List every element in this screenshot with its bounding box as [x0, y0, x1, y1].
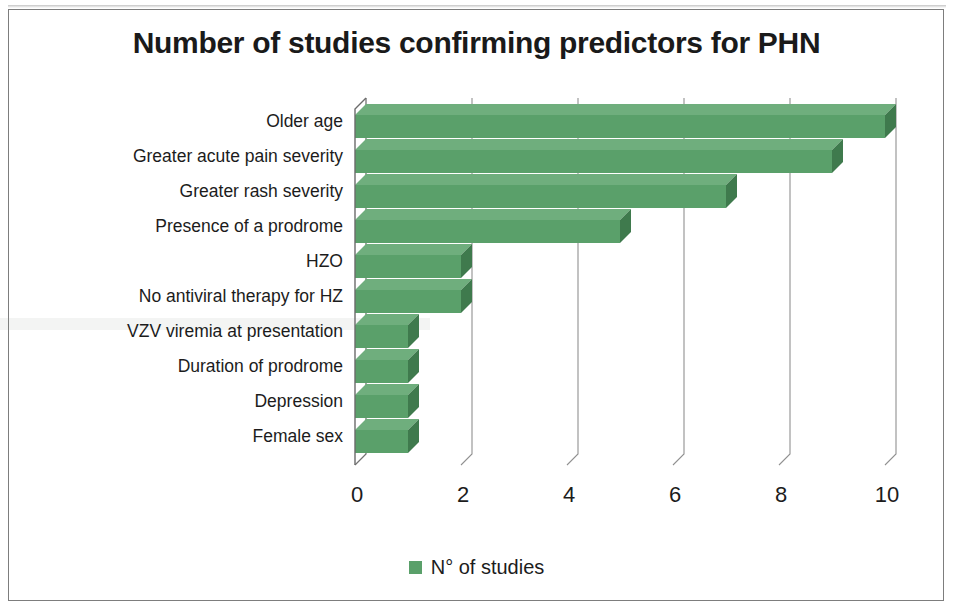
bars-group	[355, 104, 896, 453]
legend-color-swatch-icon	[409, 561, 422, 574]
category-label: Presence of a prodrome	[0, 209, 343, 244]
bar-front-face	[355, 115, 885, 138]
bar-front-face	[355, 150, 832, 173]
bar-front-face	[355, 255, 461, 278]
bar-top-face	[355, 279, 472, 290]
bar-top-face	[355, 174, 737, 185]
bar-front-face	[355, 360, 408, 383]
category-label: Greater acute pain severity	[0, 139, 343, 174]
x-tick-label: 4	[549, 482, 589, 508]
bar-1	[355, 139, 843, 173]
category-label: Duration of prodrome	[0, 349, 343, 384]
bar-front-face	[355, 430, 408, 453]
bar-top-face	[355, 419, 419, 430]
bar-4	[355, 244, 472, 278]
x-tick-label: 10	[867, 482, 907, 508]
bar-3	[355, 209, 631, 243]
bar-6	[355, 314, 419, 348]
category-label: Female sex	[0, 419, 343, 454]
category-label: No antiviral therapy for HZ	[0, 279, 343, 314]
x-tick-label: 0	[337, 482, 377, 508]
bar-9	[355, 419, 419, 453]
bar-top-face	[355, 314, 419, 325]
bar-0	[355, 104, 896, 138]
chart-page: Number of studies confirming predictors …	[0, 0, 953, 609]
bar-front-face	[355, 325, 408, 348]
category-label: Depression	[0, 384, 343, 419]
bar-7	[355, 349, 419, 383]
x-tick-label: 2	[443, 482, 483, 508]
legend-label: N° of studies	[431, 556, 545, 579]
category-label: HZO	[0, 244, 343, 279]
gridline-10	[885, 98, 896, 465]
category-axis-labels: Older ageGreater acute pain severityGrea…	[0, 104, 343, 454]
x-tick-label: 8	[761, 482, 801, 508]
x-tick-label: 6	[655, 482, 695, 508]
bar-front-face	[355, 220, 620, 243]
category-label: Greater rash severity	[0, 174, 343, 209]
bar-top-face	[355, 209, 631, 220]
bar-8	[355, 384, 419, 418]
chart-legend: N° of studies	[0, 556, 953, 579]
bar-top-face	[355, 244, 472, 255]
bar-top-face	[355, 349, 419, 360]
bar-front-face	[355, 185, 726, 208]
bar-front-face	[355, 290, 461, 313]
bar-2	[355, 174, 737, 208]
bar-top-face	[355, 104, 896, 115]
bar-top-face	[355, 384, 419, 395]
bar-front-face	[355, 395, 408, 418]
category-label: Older age	[0, 104, 343, 139]
bar-5	[355, 279, 472, 313]
category-label: VZV viremia at presentation	[0, 314, 343, 349]
bar-top-face	[355, 139, 843, 150]
